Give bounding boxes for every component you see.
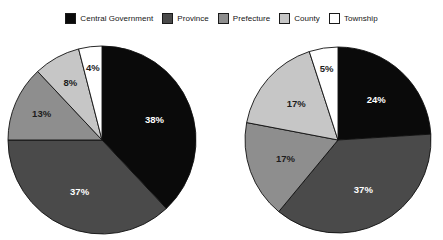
legend-swatch-central-government [65,13,76,24]
legend-item-township[interactable]: Township [329,13,378,24]
pie-chart-figure: Central GovernmentProvincePrefectureCoun… [0,0,443,240]
legend-swatch-province [162,13,173,24]
pie-slice-label-central-government: 38% [145,114,165,125]
left-pie-svg: 38%37%13%8%4% [5,43,199,237]
pie-slice-label-central-government: 24% [367,94,387,105]
pie-slice-label-county: 17% [287,98,307,109]
pie-slice-label-township: 5% [320,63,334,74]
legend-item-province[interactable]: Province [162,13,209,24]
pie-chart-right: 24%37%17%17%5% [242,44,434,236]
legend-item-label: County [294,13,320,24]
right-pie-svg: 24%37%17%17%5% [242,44,434,236]
legend-item-central-government[interactable]: Central Government [65,13,153,24]
pie-slice-label-township: 4% [86,62,100,73]
legend-swatch-township [329,13,340,24]
legend-item-label: Township [344,13,378,24]
pie-slice-label-prefecture: 13% [32,108,52,119]
legend-item-county[interactable]: County [279,13,320,24]
legend-swatch-county [279,13,290,24]
legend-item-label: Central Government [80,13,153,24]
pie-slice-label-prefecture: 17% [276,153,296,164]
legend-swatch-prefecture [218,13,229,24]
legend-item-label: Prefecture [233,13,270,24]
pie-slice-label-province: 37% [354,184,374,195]
chart-legend: Central GovernmentProvincePrefectureCoun… [0,13,443,24]
pie-slice-label-county: 8% [63,77,77,88]
pie-chart-left: 38%37%13%8%4% [5,43,199,237]
legend-item-prefecture[interactable]: Prefecture [218,13,270,24]
pie-slice-label-province: 37% [70,186,90,197]
legend-item-label: Province [177,13,209,24]
